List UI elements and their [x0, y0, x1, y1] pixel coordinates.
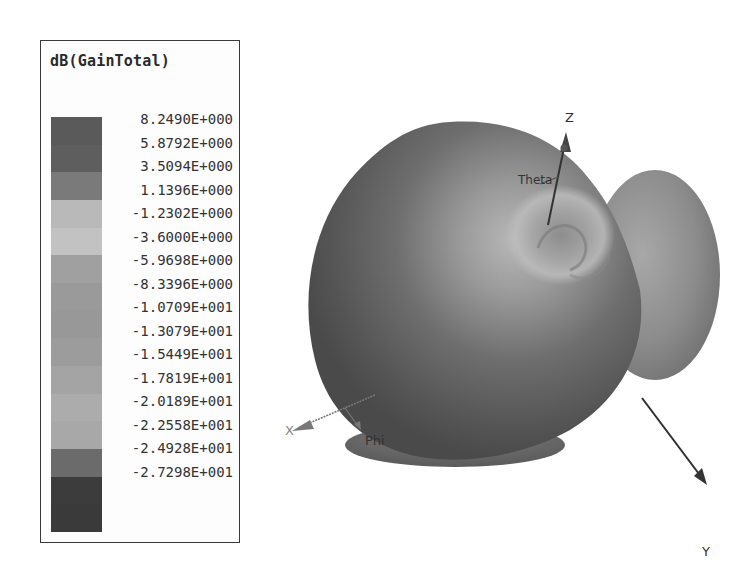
colorbar-swatch: [51, 477, 102, 505]
colorbar-swatch: [51, 255, 102, 283]
colorbar-swatch: [51, 145, 102, 173]
colorbar-tick-label: -1.0709E+001: [132, 296, 233, 320]
y-axis-label: Y: [702, 544, 710, 559]
colorbar-tick-label: -2.2558E+001: [132, 414, 233, 438]
colorbar-swatch: [51, 200, 102, 228]
colorbar-tick-label: 5.8792E+000: [140, 132, 233, 156]
colorbar-swatch: [51, 366, 102, 394]
colorbar-tick-label: 8.2490E+000: [140, 108, 233, 132]
colorbar-tick-label: 1.1396E+000: [140, 179, 233, 203]
colorbar-tick-label: 3.5094E+000: [140, 155, 233, 179]
main-lobe: [308, 122, 641, 460]
colorbar-tick-label: -2.0189E+001: [132, 390, 233, 414]
theta-label: Theta: [518, 173, 552, 187]
colorbar-swatch: [51, 311, 102, 339]
3d-radiation-pattern-plot[interactable]: Z Theta Y X Phi: [270, 60, 750, 581]
colorbar-legend: dB(GainTotal) 8.2490E+0005.8792E+0003.50…: [40, 40, 240, 543]
colorbar-swatch: [51, 449, 102, 477]
colorbar-tick-label: -5.9698E+000: [132, 249, 233, 273]
colorbar-swatch: [51, 338, 102, 366]
x-axis-arrowhead: [292, 420, 314, 431]
legend-title: dB(GainTotal): [50, 52, 170, 70]
colorbar-tick-label: -1.7819E+001: [132, 367, 233, 391]
x-axis-label: X: [285, 423, 294, 438]
z-axis-label: Z: [565, 110, 574, 125]
colorbar-tick-label: -2.7298E+001: [132, 461, 233, 485]
colorbar-tick-label: -3.6000E+000: [132, 226, 233, 250]
colorbar-swatches: [51, 117, 102, 532]
colorbar-tick-labels: 8.2490E+0005.8792E+0003.5094E+0001.1396E…: [132, 108, 233, 484]
y-axis-line: [642, 398, 702, 478]
colorbar-swatch: [51, 283, 102, 311]
colorbar-tick-label: -8.3396E+000: [132, 273, 233, 297]
colorbar-swatch: [51, 421, 102, 449]
colorbar-swatch: [51, 172, 102, 200]
colorbar-tick-label: -1.5449E+001: [132, 343, 233, 367]
phi-label: Phi: [365, 433, 385, 448]
colorbar-swatch: [51, 394, 102, 422]
colorbar-swatch: [51, 228, 102, 256]
pattern-surface: [270, 60, 750, 581]
colorbar-tick-label: -2.4928E+001: [132, 437, 233, 461]
colorbar-swatch: [51, 504, 102, 532]
colorbar-tick-label: -1.3079E+001: [132, 320, 233, 344]
colorbar-swatch: [51, 117, 102, 145]
colorbar-tick-label: -1.2302E+000: [132, 202, 233, 226]
null-dimple: [505, 185, 615, 285]
